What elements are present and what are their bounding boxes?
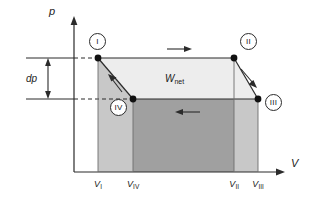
state-point-III-dot <box>255 96 262 103</box>
tick-subscript: III <box>258 183 263 190</box>
state-label-III-text: III <box>270 98 277 107</box>
dp-label: dp <box>26 74 37 84</box>
y-axis-arrowhead <box>71 16 78 25</box>
tick-subscript: II <box>235 183 239 190</box>
tick-subscript: I <box>100 183 102 190</box>
state-label-IV: IV <box>110 99 127 116</box>
x-axis-label: V <box>291 158 298 169</box>
state-point-I-dot <box>95 55 102 62</box>
net-work-label: Wnet <box>165 74 184 84</box>
y-axis-label: p <box>49 6 55 17</box>
x-axis-arrowhead <box>276 169 285 176</box>
state-label-II: II <box>240 33 257 50</box>
tick-label-V-I: VI <box>88 180 108 189</box>
state-label-I-text: I <box>96 37 98 46</box>
diagram-canvas <box>0 0 310 203</box>
tick-label-V-II: VII <box>224 180 244 189</box>
tick-subscript: IV <box>133 183 139 190</box>
state-point-IV-dot <box>130 96 137 103</box>
net-work-subscript: net <box>174 78 184 85</box>
state-label-III: III <box>265 94 282 111</box>
state-label-II-text: II <box>246 37 251 46</box>
dp-arrowhead-down <box>45 91 51 99</box>
state-label-I: I <box>89 33 106 50</box>
state-label-IV-text: IV <box>115 103 123 112</box>
shade-region-main <box>133 99 234 172</box>
top-expansion-arrow-head <box>184 46 192 52</box>
tick-label-V-III: VIII <box>247 180 269 189</box>
pv-cycle-diagram: p V dp Wnet I II III IV VI VIV VII VIII <box>0 0 310 203</box>
shade-region-right <box>234 99 258 172</box>
dp-arrowhead-up <box>45 58 51 66</box>
tick-label-V-IV: VIV <box>122 180 144 189</box>
state-point-II-dot <box>231 55 238 62</box>
